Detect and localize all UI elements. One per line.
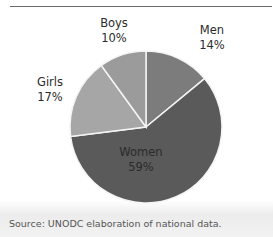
label-women: Women 59% [106, 145, 176, 175]
label-boys-name: Boys [94, 16, 134, 31]
label-men-name: Men [192, 23, 232, 38]
pie-slices [70, 51, 222, 203]
label-boys: Boys 10% [94, 16, 134, 46]
label-men: Men 14% [192, 23, 232, 53]
label-girls: Girls 17% [30, 75, 70, 105]
label-women-name: Women [106, 145, 176, 160]
pie-chart [0, 0, 273, 237]
label-girls-pct: 17% [30, 90, 70, 105]
label-men-pct: 14% [192, 38, 232, 53]
source-note: Source: UNODC elaboration of national da… [9, 218, 222, 229]
label-women-pct: 59% [106, 160, 176, 175]
label-boys-pct: 10% [94, 31, 134, 46]
label-girls-name: Girls [30, 75, 70, 90]
